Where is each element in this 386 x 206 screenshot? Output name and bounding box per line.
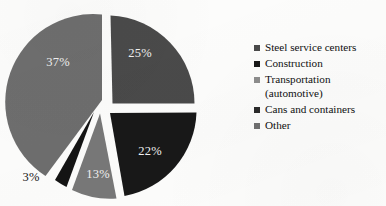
legend-item-label: Transportation (automotive) xyxy=(265,73,330,100)
legend-item-construction[interactable]: Construction xyxy=(254,57,384,71)
square-swatch-icon xyxy=(254,107,260,113)
legend-item-steel-service-centers[interactable]: Steel service centers xyxy=(254,41,384,55)
legend-item-cans-and-containers[interactable]: Cans and containers xyxy=(254,103,384,117)
square-swatch-icon xyxy=(254,77,260,83)
pie-chart-svg: 25% 22% 13% 3% 37% xyxy=(0,0,232,206)
pie-label-construction: 22% xyxy=(138,144,162,158)
pie-label-other: 37% xyxy=(46,55,70,69)
pie-label-cans-and-containers: 3% xyxy=(22,170,39,184)
square-swatch-icon xyxy=(254,123,260,129)
legend-item-other[interactable]: Other xyxy=(254,119,384,133)
square-swatch-icon xyxy=(254,61,260,67)
legend-item-label: Construction xyxy=(265,57,323,71)
legend-item-transportation-automotive[interactable]: Transportation (automotive) xyxy=(254,73,384,100)
legend-item-label: Other xyxy=(265,119,290,133)
pie-slice-steel-service-centers[interactable] xyxy=(111,16,195,104)
square-swatch-icon xyxy=(254,45,260,51)
legend-item-label: Steel service centers xyxy=(265,41,356,55)
pie-label-steel-service-centers: 25% xyxy=(128,46,152,60)
chart-legend: Steel service centers Construction Trans… xyxy=(254,41,384,135)
legend-item-label: Cans and containers xyxy=(265,103,355,117)
pie-label-transportation: 13% xyxy=(86,167,110,181)
pie-chart-figure: 25% 22% 13% 3% 37% Steel service centers… xyxy=(0,0,386,206)
pie-chart-area: 25% 22% 13% 3% 37% xyxy=(0,0,232,206)
